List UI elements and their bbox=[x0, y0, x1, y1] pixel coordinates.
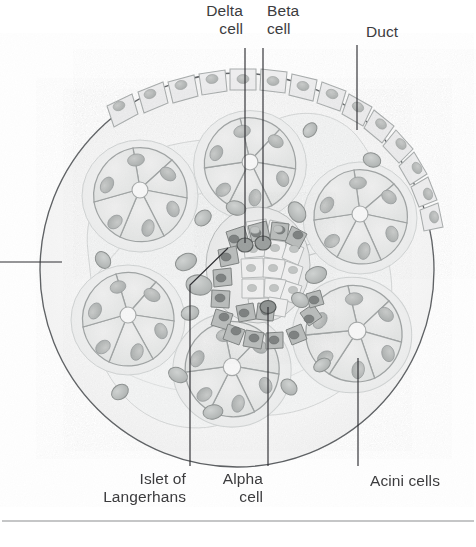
acinus bbox=[71, 265, 185, 375]
pancreas-cross-section-illustration bbox=[0, 0, 476, 547]
label-acini-cells: Acini cells bbox=[370, 472, 476, 490]
label-delta-cell: Delta cell bbox=[168, 2, 243, 38]
label-beta-cell: Beta cell bbox=[267, 2, 347, 38]
acinus-lumen bbox=[348, 322, 366, 340]
acinus bbox=[303, 162, 417, 274]
label-alpha-cell: Alpha cell bbox=[188, 470, 263, 506]
label-islet-of-langerhans: Islet of Langerhans bbox=[20, 470, 186, 506]
acinus bbox=[82, 140, 198, 252]
figure-canvas: Delta cell Beta cell Duct Islet of Lange… bbox=[0, 0, 476, 547]
label-duct: Duct bbox=[366, 23, 436, 41]
acinus-lumen bbox=[120, 307, 136, 323]
acinus-lumen bbox=[223, 358, 240, 375]
acinus-lumen bbox=[352, 206, 368, 222]
acinus bbox=[194, 111, 307, 220]
acinus-lumen bbox=[132, 182, 148, 198]
